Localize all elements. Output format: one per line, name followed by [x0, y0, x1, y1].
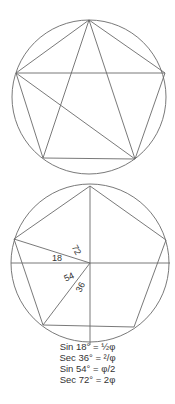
- formula-sec-72: Sec 72° = 2φ: [0, 374, 175, 385]
- formula-sin-18: Sin 18° = ½φ: [0, 341, 175, 352]
- angle-label-72: 72: [70, 243, 84, 257]
- top-diagonal-cross: [16, 73, 135, 159]
- top-figure: [12, 20, 166, 174]
- formula-sec-36: Sec 36° = ²/φ: [0, 352, 175, 363]
- top-diagonal-right: [89, 20, 135, 159]
- angle-label-18: 18: [52, 253, 62, 263]
- angle-label-54: 54: [62, 270, 75, 283]
- formula-sin-54: Sin 54° = φ/2: [0, 363, 175, 374]
- top-diagonal-left: [43, 20, 89, 158]
- bottom-figure: 72 18 54 36: [11, 184, 170, 345]
- top-circle: [12, 20, 166, 174]
